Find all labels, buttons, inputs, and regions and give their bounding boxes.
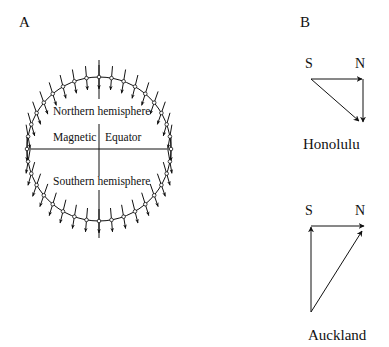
field-node-dot bbox=[122, 215, 126, 219]
auckland-label: Auckland bbox=[308, 328, 366, 343]
field-node-dot bbox=[165, 172, 169, 176]
field-node-dot bbox=[85, 76, 89, 80]
field-node-dot bbox=[26, 160, 30, 164]
field-node-dot bbox=[42, 101, 46, 105]
field-node-dot bbox=[110, 218, 114, 222]
field-node-dot bbox=[152, 194, 156, 198]
field-node-dot bbox=[133, 210, 137, 214]
equator-label: Equator bbox=[105, 132, 141, 144]
field-node-dot bbox=[152, 101, 156, 105]
field-node-dot bbox=[35, 111, 39, 115]
field-node-dot bbox=[144, 92, 148, 96]
southern-hemisphere-label: Southern hemisphere bbox=[53, 176, 150, 188]
field-node-dot bbox=[25, 147, 29, 151]
honolulu-vector-triangle bbox=[311, 79, 363, 122]
field-node-dot bbox=[85, 218, 89, 222]
field-node-dot bbox=[35, 183, 39, 187]
earth-dipole-field bbox=[25, 60, 173, 238]
honolulu-label: Honolulu bbox=[303, 137, 360, 152]
northern-hemisphere-label: Northern hemisphere bbox=[53, 106, 150, 118]
field-node-dot bbox=[97, 219, 101, 223]
field-node-dot bbox=[168, 160, 172, 164]
field-node-dot bbox=[110, 76, 114, 80]
magnetic-field-diagram bbox=[0, 0, 389, 347]
field-node-dot bbox=[51, 92, 55, 96]
field-node-dot bbox=[42, 194, 46, 198]
field-node-dot bbox=[30, 123, 34, 127]
field-node-dot bbox=[122, 80, 126, 84]
auckland-vector-triangle bbox=[311, 226, 364, 312]
magnetic-label: Magnetic bbox=[53, 132, 96, 144]
field-node-dot bbox=[97, 75, 101, 79]
field-node-dot bbox=[160, 111, 164, 115]
field-node-dot bbox=[61, 85, 65, 89]
auckland-total-vector bbox=[311, 231, 362, 312]
honolulu-total-vector bbox=[311, 79, 359, 121]
field-node-dot bbox=[73, 215, 77, 219]
field-node-dot bbox=[133, 85, 137, 89]
field-node-dot bbox=[169, 147, 173, 151]
field-node-dot bbox=[168, 135, 172, 139]
field-node-dot bbox=[144, 202, 148, 206]
field-node-dot bbox=[30, 172, 34, 176]
field-node-dot bbox=[73, 80, 77, 84]
honolulu-south-label: S bbox=[305, 57, 313, 71]
auckland-north-label: N bbox=[355, 204, 365, 218]
honolulu-north-label: N bbox=[355, 57, 365, 71]
field-node-dot bbox=[165, 123, 169, 127]
auckland-south-label: S bbox=[305, 204, 313, 218]
field-node-dot bbox=[51, 202, 55, 206]
field-node-dot bbox=[160, 183, 164, 187]
field-node-dot bbox=[61, 210, 65, 214]
